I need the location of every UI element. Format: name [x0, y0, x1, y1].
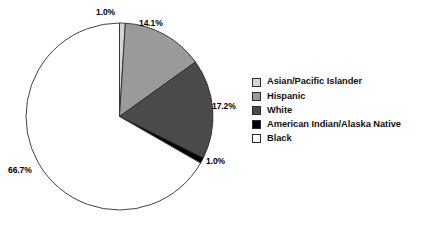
- legend-item: Black: [252, 132, 430, 146]
- legend-swatch-icon: [252, 92, 261, 101]
- legend-swatch-icon: [252, 106, 261, 115]
- pie-chart-figure: 1.0% 14.1% 17.2% 1.0% 66.7% Asian/Pacifi…: [0, 0, 432, 226]
- legend-item-label: Black: [267, 134, 292, 143]
- chart-legend: Asian/Pacific IslanderHispanicWhiteAmeri…: [252, 75, 430, 146]
- legend-item: White: [252, 103, 430, 117]
- legend-item-label: American Indian/Alaska Native: [267, 120, 401, 129]
- pie-label-american-indian-alaska-native: 1.0%: [206, 157, 225, 166]
- legend-item: Asian/Pacific Islander: [252, 75, 430, 89]
- legend-swatch-icon: [252, 78, 261, 87]
- pie-chart-plot-area: 1.0% 14.1% 17.2% 1.0% 66.7%: [0, 0, 245, 226]
- pie-chart-svg: [0, 0, 245, 226]
- pie-label-hispanic: 14.1%: [139, 19, 163, 28]
- legend-item-label: Hispanic: [267, 92, 305, 101]
- pie-label-asian-pacific-islander: 1.0%: [96, 8, 115, 17]
- legend-swatch-icon: [252, 134, 261, 143]
- pie-label-black: 66.7%: [8, 166, 32, 175]
- legend-item-label: Asian/Pacific Islander: [267, 77, 362, 86]
- pie-slice-group: [26, 23, 213, 210]
- legend-item: American Indian/Alaska Native: [252, 118, 430, 132]
- legend-swatch-icon: [252, 120, 261, 129]
- pie-label-white: 17.2%: [212, 102, 236, 111]
- legend-item-label: White: [267, 106, 292, 115]
- legend-item: Hispanic: [252, 89, 430, 103]
